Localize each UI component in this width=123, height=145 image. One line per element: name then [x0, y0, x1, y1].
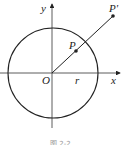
x-axis-label: x — [110, 74, 116, 86]
figure-caption: 图 2-2 — [50, 140, 71, 145]
y-axis-label: y — [40, 2, 46, 14]
inversion-diagram: y x O r P P' 图 2-2 — [0, 0, 123, 145]
point-p-label: P — [68, 39, 76, 51]
radius-label: r — [75, 74, 80, 86]
origin-label: O — [42, 74, 50, 86]
point-p-prime-label: P' — [108, 2, 119, 14]
point-p-prime — [111, 14, 115, 18]
ray-op-prime — [52, 16, 113, 73]
